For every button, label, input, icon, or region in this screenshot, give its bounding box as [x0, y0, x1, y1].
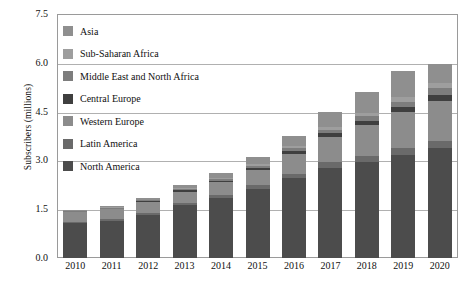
bar-segment — [209, 198, 233, 258]
legend-item: Middle East and North Africa — [63, 65, 283, 88]
bar-2017 — [318, 112, 342, 258]
bar-2018 — [355, 92, 379, 258]
bar-segment — [355, 125, 379, 156]
bar-segment — [173, 192, 197, 203]
legend-swatch-icon — [63, 94, 73, 104]
legend-label: Western Europe — [80, 116, 144, 127]
bar-segment — [318, 137, 342, 162]
bar-2012 — [136, 198, 160, 258]
legend-label: Latin America — [80, 138, 137, 149]
legend-label: North America — [80, 161, 140, 172]
bar-segment — [246, 189, 270, 258]
legend-label: Central Europe — [80, 93, 141, 104]
x-tick-label: 2011 — [102, 260, 122, 272]
x-tick-label: 2014 — [211, 260, 231, 272]
bar-segment — [428, 88, 452, 95]
x-tick-label: 2015 — [248, 260, 268, 272]
legend-item: Central Europe — [63, 88, 283, 111]
legend-item: Asia — [63, 20, 283, 43]
y-tick-label: 0.0 — [36, 253, 49, 263]
bar-segment — [282, 178, 306, 258]
legend-label: Asia — [80, 26, 98, 37]
x-tick-label: 2010 — [65, 260, 85, 272]
legend-item: Sub-Saharan Africa — [63, 43, 283, 66]
legend-swatch-icon — [63, 26, 73, 36]
legend-swatch-icon — [63, 49, 73, 59]
bar-2020 — [428, 64, 452, 258]
x-tick-label: 2017 — [320, 260, 340, 272]
bar-segment — [282, 154, 306, 174]
bar-segment — [428, 101, 452, 141]
chart-legend: AsiaSub-Saharan AfricaMiddle East and No… — [63, 20, 283, 178]
bar-segment — [318, 168, 342, 258]
bar-2016 — [282, 136, 306, 258]
legend-swatch-icon — [63, 116, 73, 126]
bar-segment — [63, 212, 87, 221]
bar-2013 — [173, 185, 197, 258]
bar-segment — [318, 112, 342, 127]
y-axis-tick-labels: 0.01.53.04.56.07.5 — [0, 14, 52, 258]
bar-segment — [391, 155, 415, 258]
x-tick-label: 2020 — [430, 260, 450, 272]
y-tick-label: 1.5 — [36, 204, 49, 214]
bar-2011 — [100, 206, 124, 258]
stacked-bar-chart: Subscribers (millions) 0.01.53.04.56.07.… — [0, 0, 475, 291]
bar-segment — [63, 223, 87, 258]
bar-segment — [282, 136, 306, 146]
legend-label: Sub-Saharan Africa — [80, 48, 159, 59]
legend-item: Western Europe — [63, 110, 283, 133]
x-axis-tick-labels: 2010201120122013201420152016201720182019… — [57, 260, 458, 278]
legend-swatch-icon — [63, 161, 73, 171]
y-tick-label: 4.5 — [36, 107, 49, 117]
x-tick-label: 2018 — [357, 260, 377, 272]
legend-item: Latin America — [63, 133, 283, 156]
y-tick-label: 3.0 — [36, 155, 49, 165]
bar-segment — [173, 205, 197, 258]
bar-segment — [100, 221, 124, 258]
bar-segment — [209, 182, 233, 194]
x-tick-label: 2019 — [393, 260, 413, 272]
y-tick-label: 7.5 — [36, 9, 49, 19]
bar-segment — [391, 71, 415, 97]
bar-segment — [391, 112, 415, 148]
x-tick-label: 2012 — [138, 260, 158, 272]
bar-segment — [428, 64, 452, 83]
bar-2014 — [209, 173, 233, 258]
bar-segment — [428, 141, 452, 148]
x-tick-label: 2013 — [175, 260, 195, 272]
bar-segment — [136, 215, 160, 258]
bar-segment — [355, 92, 379, 112]
legend-label: Middle East and North Africa — [80, 71, 199, 82]
legend-swatch-icon — [63, 139, 73, 149]
bar-segment — [136, 202, 160, 212]
legend-item: North America — [63, 155, 283, 178]
bar-segment — [428, 148, 452, 258]
bar-2019 — [391, 71, 415, 258]
bar-segment — [100, 209, 124, 219]
x-tick-label: 2016 — [284, 260, 304, 272]
y-tick-label: 6.0 — [36, 58, 49, 68]
bar-segment — [355, 162, 379, 258]
legend-swatch-icon — [63, 71, 73, 81]
bar-2010 — [63, 210, 87, 258]
